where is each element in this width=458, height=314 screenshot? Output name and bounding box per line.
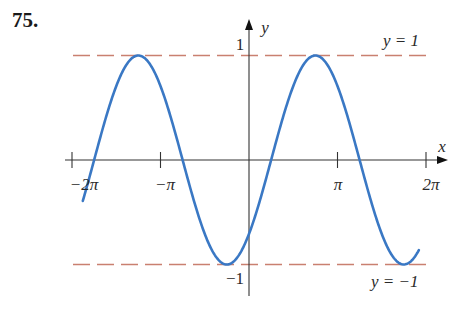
x-tick-label: π [334, 175, 343, 194]
y-axis-arrow-icon [245, 19, 253, 30]
lower-asymptote-label: y = −1 [369, 272, 419, 291]
upper-asymptote-label: y = 1 [381, 31, 419, 50]
chart-plot: −2π−ππ2π1−1xyy = 1y = −1 [0, 0, 458, 314]
x-axis-label: x [437, 137, 446, 156]
x-tick-label: −π [155, 175, 175, 194]
y-tick-label-neg1: −1 [226, 269, 244, 288]
y-tick-label-1: 1 [236, 35, 245, 54]
x-axis-arrow-icon [437, 156, 448, 164]
x-tick-label: −2π [70, 175, 99, 194]
y-axis-label: y [259, 18, 269, 37]
x-tick-label: 2π [422, 175, 440, 194]
